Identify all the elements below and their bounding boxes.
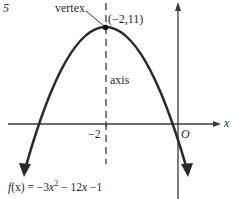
x-axis-arrow-icon: [213, 121, 221, 127]
function-tail: −1: [87, 181, 102, 193]
y-axis-arrow-icon: [175, 2, 181, 11]
function-arg: (x): [11, 181, 24, 193]
figure-number: 5: [3, 2, 9, 14]
curve-left-arrow-icon: [19, 163, 31, 177]
origin-label: O: [181, 128, 190, 140]
vertex-label: vertex: [55, 2, 85, 14]
function-rest: − 12: [58, 181, 82, 193]
vertex-leader-line: [86, 11, 104, 26]
parabola-graph: [0, 0, 232, 199]
parabola-curve: [26, 27, 186, 166]
x-axis-label: x: [224, 117, 229, 129]
curve-right-arrow-icon: [181, 163, 193, 177]
tick-label-minus-2: −2: [88, 128, 101, 140]
axis-label: axis: [110, 74, 129, 86]
y-axis: [175, 2, 181, 199]
function-label: f(x) = −3x2 − 12x −1: [8, 180, 102, 193]
function-eq: = −3: [25, 181, 49, 193]
vertex-coords-label: (−2,11): [108, 13, 143, 25]
